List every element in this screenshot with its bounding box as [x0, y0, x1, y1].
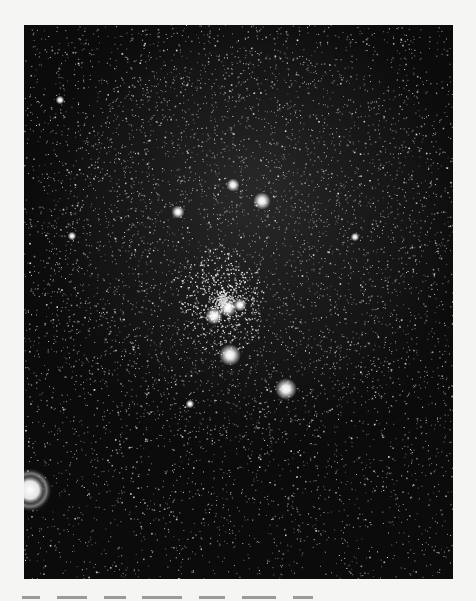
caption-word — [22, 596, 40, 599]
star-field-canvas — [24, 25, 453, 579]
caption-word — [142, 596, 182, 599]
figure-caption — [22, 594, 462, 601]
star-field-photo — [24, 25, 453, 579]
caption-word — [104, 596, 126, 599]
caption-word — [199, 596, 225, 599]
caption-word — [57, 596, 87, 599]
caption-word — [242, 596, 276, 599]
scanned-page: Fig. — (caption cropped at page edge) — [0, 0, 476, 601]
caption-word — [293, 596, 313, 599]
